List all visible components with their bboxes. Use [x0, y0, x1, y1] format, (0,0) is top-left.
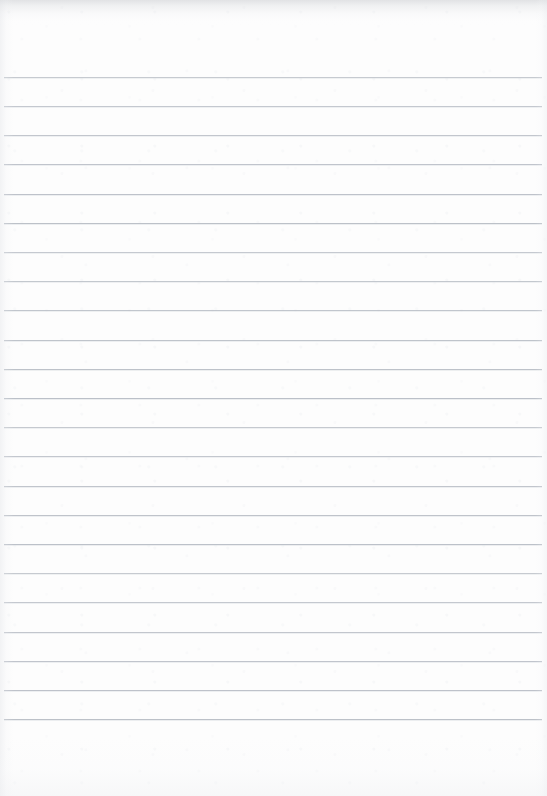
paper-surface — [0, 0, 547, 796]
lined-paper-page — [0, 0, 547, 796]
